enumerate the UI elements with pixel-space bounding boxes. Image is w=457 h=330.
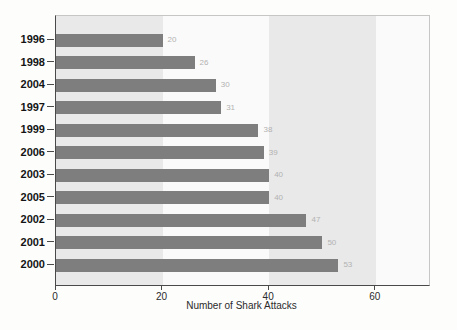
x-axis-tick-0 — [55, 285, 56, 290]
y-axis-label-2003: 2003 — [0, 168, 45, 180]
x-axis-tick-40 — [268, 285, 269, 290]
bar-2005 — [56, 191, 269, 204]
y-axis-label-2001: 2001 — [0, 236, 45, 248]
bars-layer: 2026303138394040475053 — [56, 16, 429, 285]
y-axis-tick-1998 — [47, 61, 54, 62]
y-axis-label-1999: 1999 — [0, 123, 45, 135]
y-axis-tick-2002 — [47, 219, 54, 220]
bar-2003 — [56, 169, 269, 182]
y-axis-tick-1996 — [47, 39, 54, 40]
bar-2000 — [56, 259, 338, 272]
bar-2001 — [56, 236, 322, 249]
shark-attacks-bar-chart: 2026303138394040475053 19961998200419971… — [0, 0, 457, 330]
x-axis-tick-60 — [374, 285, 375, 290]
y-axis-tick-1997 — [47, 106, 54, 107]
x-axis-tick-20 — [161, 285, 162, 290]
bar-1997 — [56, 101, 221, 114]
bar-value-2002: 47 — [311, 215, 320, 225]
bar-value-2006: 39 — [269, 148, 278, 158]
y-axis-tick-2003 — [47, 174, 54, 175]
y-axis-tick-1999 — [47, 129, 54, 130]
y-axis-label-1997: 1997 — [0, 101, 45, 113]
bar-1998 — [56, 56, 195, 69]
y-axis-label-2002: 2002 — [0, 213, 45, 225]
plot-area: 2026303138394040475053 — [55, 15, 430, 286]
bar-value-2004: 30 — [221, 80, 230, 90]
bar-value-1996: 20 — [168, 35, 177, 45]
bar-value-1999: 38 — [263, 125, 272, 135]
bar-1999 — [56, 124, 258, 137]
y-axis-label-1998: 1998 — [0, 56, 45, 68]
y-axis-label-2000: 2000 — [0, 258, 45, 270]
y-axis-tick-2000 — [47, 264, 54, 265]
y-axis-tick-2004 — [47, 84, 54, 85]
y-axis-label-2006: 2006 — [0, 146, 45, 158]
y-axis-labels: 1996199820041997199920062003200520022001… — [0, 15, 45, 284]
bar-2002 — [56, 214, 306, 227]
bar-value-1998: 26 — [200, 58, 209, 68]
y-axis-tick-2001 — [47, 241, 54, 242]
bar-1996 — [56, 34, 163, 47]
x-axis-title: Number of Shark Attacks — [55, 300, 428, 312]
bar-value-1997: 31 — [226, 103, 235, 113]
y-axis-label-1996: 1996 — [0, 33, 45, 45]
bar-value-2000: 53 — [343, 260, 352, 270]
y-axis-label-2005: 2005 — [0, 191, 45, 203]
y-axis-label-2004: 2004 — [0, 78, 45, 90]
bar-2004 — [56, 79, 216, 92]
y-axis-tick-2005 — [47, 196, 54, 197]
bar-value-2003: 40 — [274, 170, 283, 180]
bar-2006 — [56, 146, 264, 159]
y-axis-tick-2006 — [47, 151, 54, 152]
bar-value-2001: 50 — [327, 238, 336, 248]
bar-value-2005: 40 — [274, 193, 283, 203]
